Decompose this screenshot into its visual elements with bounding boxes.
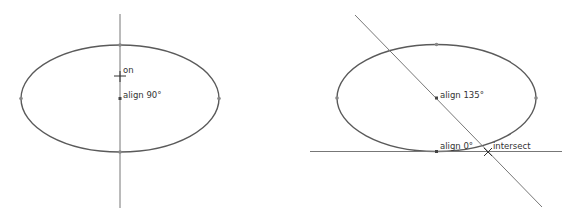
label-on: on (123, 65, 134, 75)
bottom-point-marker (435, 150, 438, 153)
center-point-marker (119, 97, 122, 100)
diagonal-guide-line[interactable] (355, 15, 542, 207)
diagram-canvas: on align 90° align 135° align 0° interse… (0, 0, 581, 218)
grip-point-bottom[interactable] (118, 150, 122, 154)
grip-point-left[interactable] (19, 97, 23, 101)
grip-point-right[interactable] (534, 96, 538, 100)
label-align-135: align 135° (440, 90, 484, 100)
label-align-0: align 0° (440, 141, 473, 151)
grip-point-left[interactable] (335, 96, 339, 100)
center-point-marker (435, 97, 438, 100)
right-panel: align 135° align 0° intersect (310, 15, 562, 207)
grip-point-right[interactable] (217, 97, 221, 101)
left-panel: on align 90° (19, 14, 221, 208)
grip-point-top[interactable] (435, 43, 439, 47)
label-intersect: intersect (493, 141, 531, 151)
label-align-90: align 90° (123, 90, 161, 100)
grip-point-top[interactable] (118, 43, 122, 47)
